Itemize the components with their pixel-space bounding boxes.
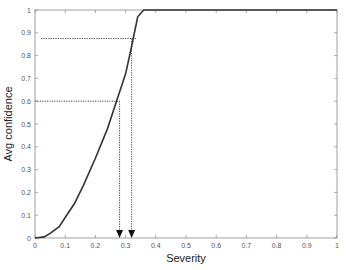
- y-tick-label: 0.8: [21, 52, 31, 59]
- x-tick-label: 0: [33, 242, 37, 249]
- x-tick-label: 0.5: [181, 242, 191, 249]
- y-tick-label: 0: [27, 235, 31, 242]
- y-tick-label: 0.5: [21, 121, 31, 128]
- y-tick-label: 0.6: [21, 98, 31, 105]
- y-tick-label: 0.4: [21, 143, 31, 150]
- x-tick-label: 0.8: [272, 242, 282, 249]
- x-tick-label: 0.7: [242, 242, 252, 249]
- arrow-down-icon: [116, 230, 123, 238]
- arrow-down-icon: [128, 230, 135, 238]
- x-tick-label: 0.2: [91, 242, 101, 249]
- x-tick-label: 0.3: [121, 242, 131, 249]
- x-tick-label: 0.6: [211, 242, 221, 249]
- confidence-curve: [35, 10, 337, 238]
- chart: 00.10.20.30.40.50.60.70.80.9100.10.20.30…: [0, 0, 348, 270]
- x-tick-label: 0.9: [302, 242, 312, 249]
- plot-border: [35, 10, 337, 238]
- y-tick-label: 0.2: [21, 189, 31, 196]
- y-tick-label: 0.1: [21, 212, 31, 219]
- x-tick-label: 0.1: [60, 242, 70, 249]
- y-tick-label: 1: [27, 7, 31, 14]
- y-tick-label: 0.7: [21, 75, 31, 82]
- x-axis-label: Severity: [166, 252, 206, 264]
- plot-frame: [35, 10, 337, 238]
- y-tick-label: 0.3: [21, 166, 31, 173]
- y-axis-label: Avg confidence: [2, 86, 14, 161]
- dotted-guides: [35, 39, 136, 239]
- x-tick-label: 0.4: [151, 242, 161, 249]
- y-tick-label: 0.9: [21, 29, 31, 36]
- x-tick-label: 1: [335, 242, 339, 249]
